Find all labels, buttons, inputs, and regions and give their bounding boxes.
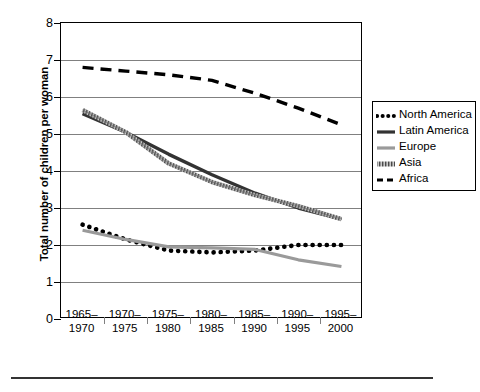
y-axis-tick: [54, 282, 61, 283]
series-asia: [83, 110, 342, 219]
legend-label: Africa: [399, 172, 428, 184]
legend-label: North America: [399, 108, 472, 120]
y-axis-tick-label: 3: [25, 202, 53, 215]
legend-label: Europe: [399, 140, 436, 152]
y-axis-tick-label: 4: [25, 165, 53, 178]
bottom-divider: [11, 377, 433, 379]
y-axis-tick-label: 7: [25, 54, 53, 67]
y-axis-tick: [54, 208, 61, 209]
legend-item-europe[interactable]: Europe: [376, 138, 472, 154]
y-axis-tick-label: 2: [25, 239, 53, 252]
plot-area: 012345678: [60, 22, 362, 318]
x-axis-tick-label-line-1: 1995–: [312, 308, 368, 322]
y-axis-tick: [54, 245, 61, 246]
x-axis-tick-label-line-2: 2000: [312, 322, 368, 336]
y-axis-tick: [54, 134, 61, 135]
y-axis-tick-label: 1: [25, 276, 53, 289]
legend-item-asia[interactable]: Asia: [376, 154, 472, 170]
legend-swatch-icon: [376, 108, 396, 120]
y-axis-tick: [54, 60, 61, 61]
x-axis-tick-label: 1995–2000: [312, 308, 368, 335]
legend-swatch-icon: [376, 124, 396, 136]
y-axis-tick-label: 5: [25, 128, 53, 141]
y-axis-tick-label: 0: [25, 313, 53, 326]
legend-item-latin-america[interactable]: Latin America: [376, 122, 472, 138]
legend-swatch-icon: [376, 140, 396, 152]
y-axis-tick: [54, 23, 61, 24]
legend-item-north-america[interactable]: North America: [376, 106, 472, 122]
legend-label: Asia: [399, 156, 421, 168]
y-axis-tick-label: 8: [25, 17, 53, 30]
series-africa: [83, 67, 342, 124]
chart-figure: Total number of children per woman 01234…: [0, 0, 480, 392]
y-axis-tick: [54, 171, 61, 172]
series-europe: [83, 230, 342, 266]
legend-item-africa[interactable]: Africa: [376, 170, 472, 186]
y-axis-tick: [54, 97, 61, 98]
legend: North AmericaLatin AmericaEuropeAsiaAfri…: [372, 101, 476, 191]
series-layer: [61, 23, 363, 319]
legend-label: Latin America: [399, 124, 469, 136]
legend-swatch-icon: [376, 172, 396, 184]
legend-swatch-icon: [376, 156, 396, 168]
y-axis-tick-label: 6: [25, 91, 53, 104]
